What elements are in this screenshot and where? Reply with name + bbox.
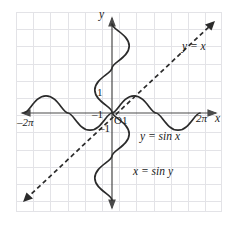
- tick-x-left-end: –2π: [17, 117, 34, 128]
- y-axis-label: y: [99, 9, 104, 21]
- sine-inverse-graph-figure: y x O 1 –1 1 –1 –2π 2π y = x y = sin x x…: [0, 0, 238, 226]
- origin-label: O: [114, 115, 122, 126]
- tick-x-right-end: 2π: [196, 113, 207, 124]
- tick-x-positive-one: 1: [122, 115, 128, 126]
- x-axis-label: x: [215, 113, 220, 125]
- label-identity-line: y = x: [182, 41, 206, 53]
- label-inverse-sine-curve: x = sin y: [133, 166, 173, 178]
- tick-y-negative-one: –1: [99, 123, 110, 134]
- label-sine-curve: y = sin x: [140, 131, 180, 143]
- tick-y-positive-one: 1: [97, 87, 103, 98]
- tick-x-negative-one: –1: [92, 109, 103, 120]
